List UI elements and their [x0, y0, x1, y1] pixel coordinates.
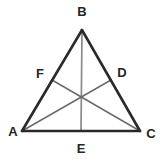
vertex-label-F: F: [36, 67, 44, 80]
triangle-side-AB: [22, 30, 82, 131]
triangle-medians-drawing: [0, 0, 162, 163]
vertex-label-A: A: [8, 125, 17, 138]
triangle-side-BC: [82, 30, 140, 131]
vertex-label-E: E: [77, 142, 86, 155]
vertex-label-D: D: [117, 66, 126, 79]
vertex-label-C: C: [146, 127, 155, 140]
geometry-figure-canvas: B F D A C E: [0, 0, 162, 163]
vertex-label-B: B: [77, 5, 86, 18]
median-lines-group: [22, 30, 140, 131]
median-line-BE: [81, 30, 82, 131]
